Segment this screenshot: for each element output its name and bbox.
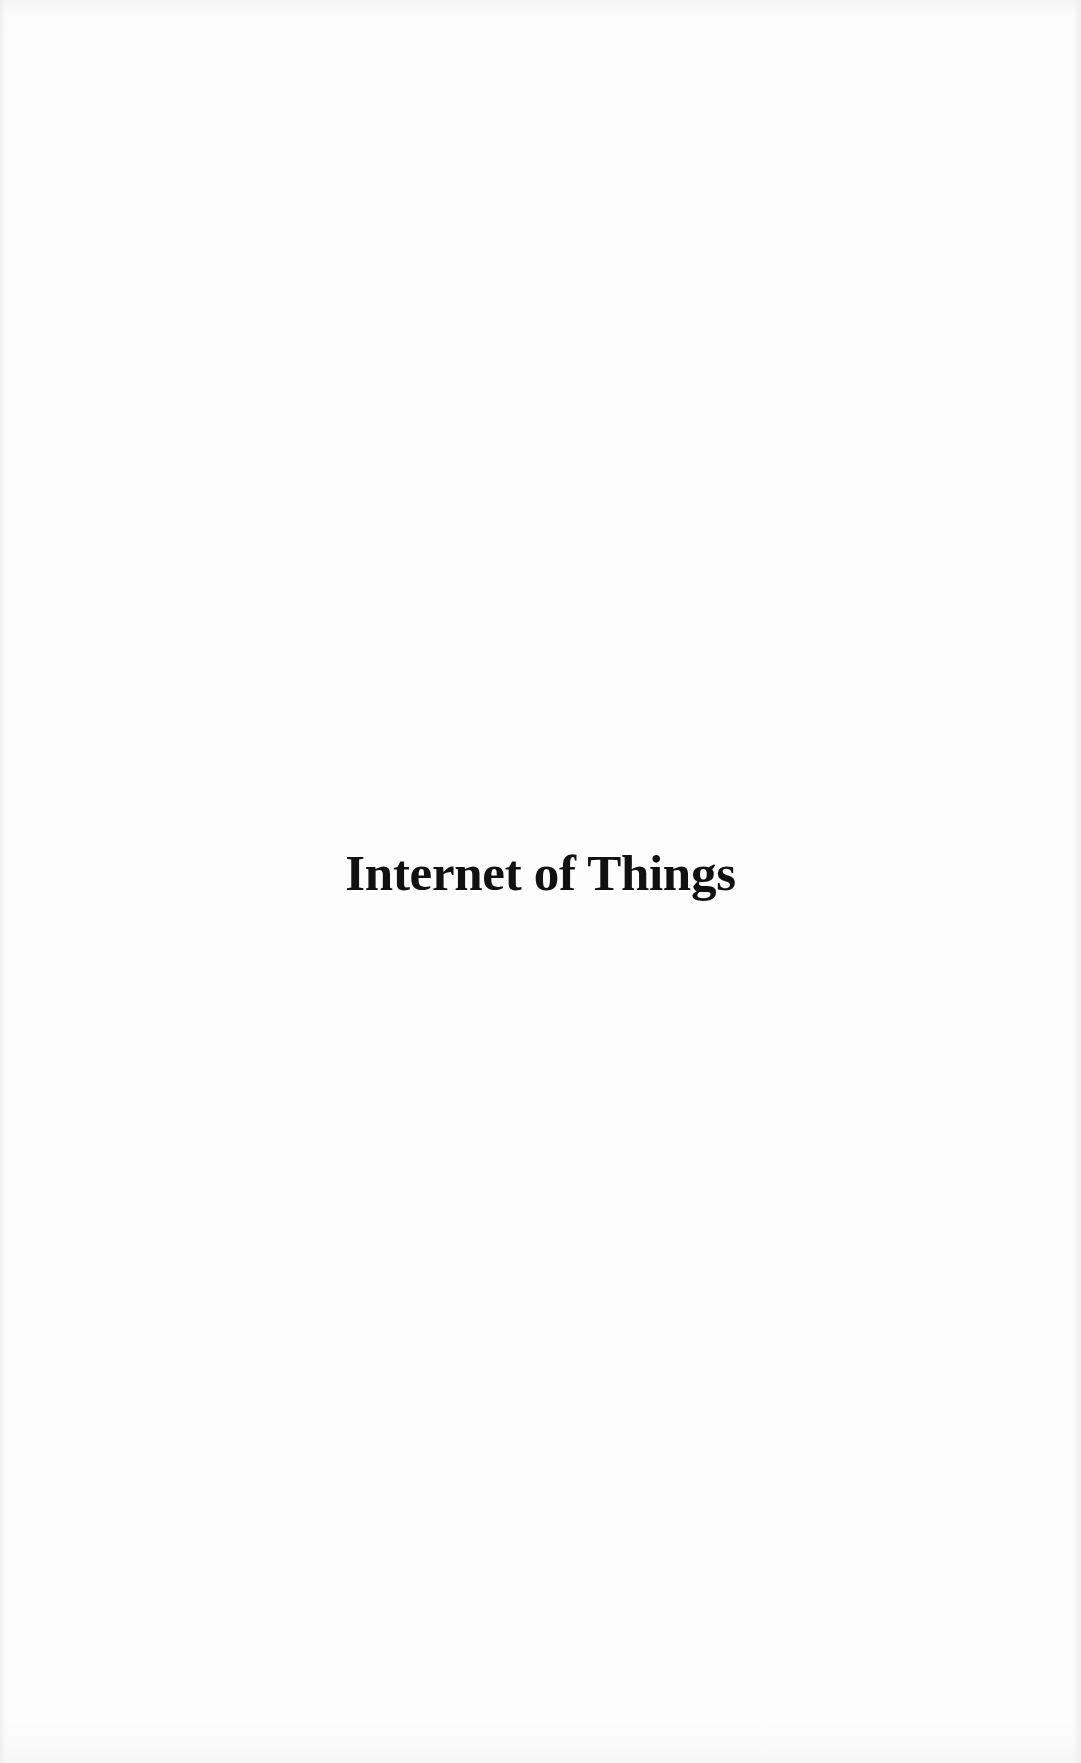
book-page: Internet of Things <box>0 0 1081 1763</box>
page-title: Internet of Things <box>0 843 1081 903</box>
